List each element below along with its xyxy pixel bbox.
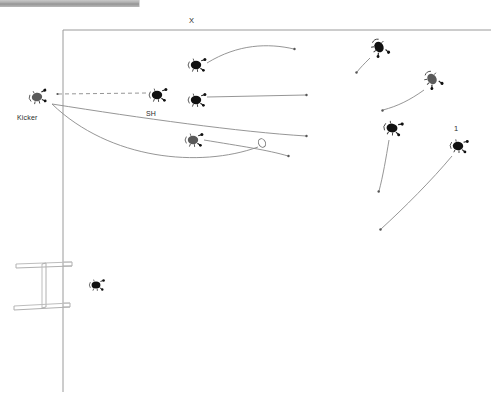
dashed-pass-line [56,93,147,95]
runner-lines-left [204,46,306,156]
label-kicker: Kicker [17,114,38,121]
label-sh: SH [146,110,156,117]
player-low[interactable] [185,133,203,147]
player-upper-right-1[interactable] [369,36,391,60]
player-top[interactable] [188,58,206,72]
diagram-canvas: X SH Kicker 1 [0,0,496,406]
player-mid[interactable] [188,93,206,107]
ball-icon [257,138,267,149]
play-diagram-svg [0,0,496,406]
label-one: 1 [454,124,458,133]
label-x: X [189,16,194,25]
runner-line-endpoints-right [355,71,383,230]
player-upper-right-2[interactable] [421,68,444,92]
player-right-one[interactable] [450,138,469,153]
player-sh[interactable] [149,88,167,102]
path-endpoint [305,135,307,137]
kick-flight-paths [52,104,306,158]
runner-line-endpoints [287,48,307,157]
field-boundary [63,30,491,392]
runner-lines-right [357,58,452,229]
player-near-goal[interactable] [89,279,104,291]
player-mid-right[interactable] [383,119,404,137]
player-kicker[interactable] [28,88,48,105]
